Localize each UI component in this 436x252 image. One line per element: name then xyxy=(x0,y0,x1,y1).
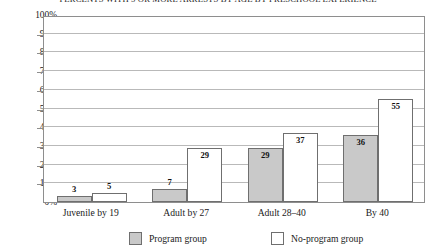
legend-label: No-program group xyxy=(291,233,363,244)
gridline-60 xyxy=(44,89,424,90)
bar: 5 xyxy=(92,193,127,202)
bar-value-label: 29 xyxy=(188,151,221,160)
gridline-90 xyxy=(44,33,424,34)
bar-value-label: 55 xyxy=(379,102,412,111)
x-axis-category-label: Juvenile by 19 xyxy=(43,207,139,218)
gridline-40 xyxy=(44,126,424,127)
gridline-80 xyxy=(44,51,424,52)
bar-value-label: 7 xyxy=(153,178,186,187)
bar: 37 xyxy=(283,133,318,202)
bar: 29 xyxy=(248,148,283,202)
bar: 36 xyxy=(343,135,378,202)
chart-title: PERCENTS WITH 5 OR MORE ARRESTS BY AGE B… xyxy=(0,0,436,5)
bar-value-label: 29 xyxy=(249,151,282,160)
gridline-70 xyxy=(44,70,424,71)
legend-swatch-icon xyxy=(271,232,284,245)
legend-swatch-icon xyxy=(129,232,142,245)
x-axis-category-label: Adult by 27 xyxy=(139,207,235,218)
plot-area: 3572929373655 xyxy=(43,16,425,203)
x-axis-category-label: Adult 28–40 xyxy=(234,207,330,218)
bar: 29 xyxy=(187,148,222,202)
bar-value-label: 5 xyxy=(93,182,126,191)
chart-legend: Program groupNo-program group xyxy=(43,231,425,249)
bar-value-label: 37 xyxy=(284,136,317,145)
bar-value-label: 36 xyxy=(344,138,377,147)
bar: 7 xyxy=(152,189,187,202)
legend-entry: Program group xyxy=(129,231,207,245)
bar-value-label: 3 xyxy=(58,185,91,194)
legend-entry: No-program group xyxy=(271,231,363,245)
legend-label: Program group xyxy=(149,233,207,244)
gridline-50 xyxy=(44,108,424,109)
bar: 3 xyxy=(57,196,92,202)
bar: 55 xyxy=(378,99,413,202)
x-axis-category-label: By 40 xyxy=(330,207,426,218)
